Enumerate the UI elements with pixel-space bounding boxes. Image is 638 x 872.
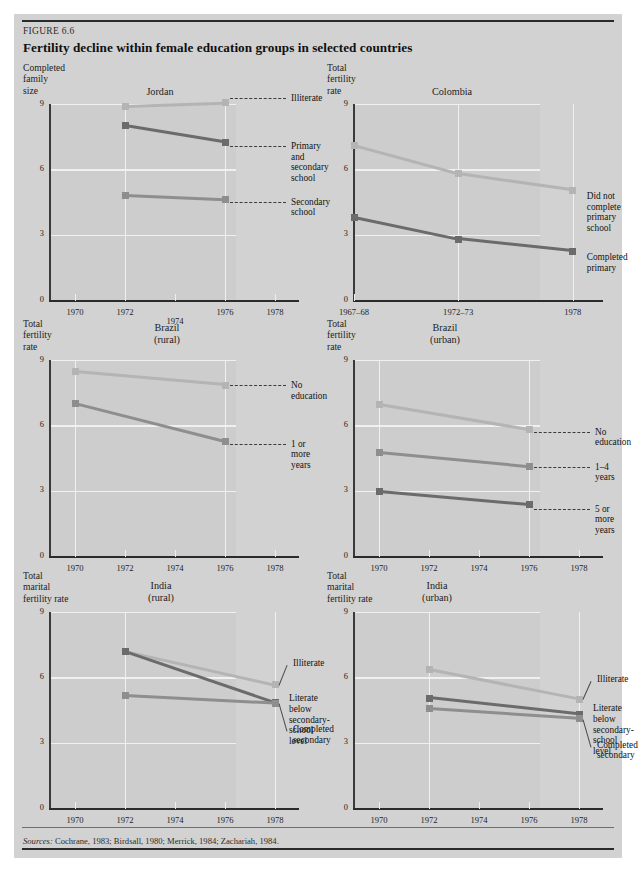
leader-line [230, 98, 286, 99]
data-point-marker [426, 666, 433, 673]
y-tick-label: 0 [22, 295, 44, 304]
gridline-vertical [125, 612, 126, 808]
y-tick-label: 0 [326, 551, 348, 560]
data-point-marker [376, 488, 383, 495]
x-tick-label: 1970 [66, 815, 83, 825]
y-tick-label: 9 [22, 607, 44, 616]
x-tick-mark [225, 550, 226, 557]
data-point-marker [526, 426, 533, 433]
chart-brazil-urban: Total fertility rateBrazil (urban)036919… [318, 316, 622, 574]
x-tick-label: 1978 [266, 815, 283, 825]
data-point-marker [222, 438, 229, 445]
data-point-marker [569, 187, 576, 194]
data-point-marker [351, 142, 358, 149]
x-tick-mark [125, 802, 126, 809]
y-tick-label: 9 [22, 99, 44, 108]
y-axis-line [49, 104, 51, 301]
x-tick-mark [429, 802, 430, 809]
x-axis-line [49, 300, 299, 302]
top-rule [22, 20, 614, 22]
y-tick-label: 6 [326, 672, 348, 681]
x-tick-mark [354, 294, 355, 301]
y-axis-title: Total fertility rate [23, 318, 52, 352]
y-axis-title: Total marital fertility rate [327, 570, 373, 604]
series-label: Illiterate [597, 674, 629, 685]
data-point-marker [222, 382, 229, 389]
y-tick-label: 6 [22, 164, 44, 173]
leader-line [278, 704, 287, 732]
y-tick-label: 9 [326, 355, 348, 364]
data-point-marker [426, 705, 433, 712]
chart-name: India (rural) [106, 580, 216, 603]
data-point-marker [222, 139, 229, 146]
y-tick-label: 3 [22, 737, 44, 746]
gridline-vertical [573, 104, 574, 300]
data-point-marker [376, 449, 383, 456]
gridline-horizontal [50, 235, 236, 236]
x-tick-label: 1974 [470, 815, 487, 825]
gridline-vertical [379, 360, 380, 556]
source-lead: Sources: [23, 836, 53, 846]
chart-colombia: Total fertility rateColombia03691967–681… [318, 60, 622, 318]
leader-line [230, 385, 286, 386]
gridline-vertical [529, 360, 530, 556]
data-point-marker [122, 122, 129, 129]
gridline-horizontal [50, 743, 236, 744]
data-point-marker [122, 192, 129, 199]
chart-name: Brazil (rural) [112, 322, 222, 345]
y-axis-line [353, 612, 355, 809]
y-tick-label: 3 [326, 737, 348, 746]
data-point-marker [222, 196, 229, 203]
data-point-marker [122, 648, 129, 655]
gridline-horizontal [50, 360, 236, 361]
chart-jordan: Completed family sizeJordan0369197019721… [14, 60, 318, 318]
leader-line [230, 444, 286, 445]
data-point-marker [376, 401, 383, 408]
gridline-horizontal [50, 612, 236, 613]
data-point-marker [351, 214, 358, 221]
gridline-horizontal [354, 104, 540, 105]
x-tick-mark [175, 802, 176, 809]
gridline-vertical [225, 360, 226, 556]
figure-title: Fertility decline within female educatio… [23, 40, 412, 56]
chart-name: Jordan [100, 86, 220, 98]
x-tick-mark [75, 294, 76, 301]
y-axis-title: Total marital fertility rate [23, 570, 69, 604]
x-tick-mark [175, 550, 176, 557]
gridline-vertical [275, 612, 276, 808]
x-tick-mark [75, 802, 76, 809]
x-tick-mark [429, 550, 430, 557]
x-tick-mark [573, 294, 574, 301]
leader-line [582, 719, 591, 747]
y-tick-label: 3 [326, 229, 348, 238]
x-tick-label: 1976 [520, 815, 537, 825]
gridline-vertical [125, 104, 126, 300]
x-tick-mark [379, 550, 380, 557]
leader-line [278, 665, 287, 685]
y-axis-title: Total fertility rate [327, 318, 356, 352]
x-tick-mark [125, 550, 126, 557]
x-tick-mark [275, 294, 276, 301]
chart-india-urban: Total marital fertility rateIndia (urban… [318, 568, 622, 826]
x-axis-line [353, 808, 603, 810]
leader-line [534, 509, 590, 510]
x-tick-mark [379, 802, 380, 809]
bottom-rule [22, 848, 614, 850]
gridline-horizontal [50, 169, 236, 170]
charts-container: Completed family sizeJordan0369197019721… [14, 60, 622, 832]
x-tick-mark [579, 802, 580, 809]
series-label: No education [595, 427, 631, 448]
data-point-marker [526, 463, 533, 470]
y-tick-label: 6 [326, 164, 348, 173]
y-axis-line [353, 104, 355, 301]
leader-line [230, 146, 286, 147]
leader-line [230, 202, 286, 203]
series-label: 1 or more years [291, 439, 318, 471]
source-rule [22, 827, 614, 828]
x-axis-line [49, 556, 299, 558]
plot-area [50, 612, 236, 808]
x-tick-label: 1974 [166, 815, 183, 825]
chart-name: Colombia [392, 86, 512, 98]
chart-brazil-rural: Total fertility rateBrazil (rural)036919… [14, 316, 318, 574]
chart-india-rural: Total marital fertility rateIndia (rural… [14, 568, 318, 826]
